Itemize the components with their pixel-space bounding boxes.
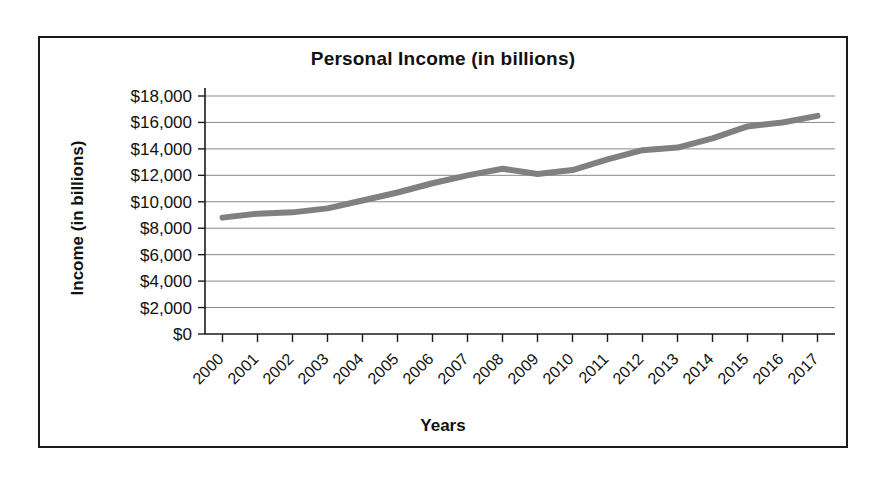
y-tick-label: $4,000 — [140, 272, 192, 291]
y-tick-label: $6,000 — [140, 246, 192, 265]
x-tick-label: 2007 — [434, 350, 471, 387]
x-tick-label: 2004 — [329, 350, 366, 387]
data-series — [223, 116, 818, 218]
y-tick-label: $18,000 — [131, 87, 192, 106]
x-tick-label: 2011 — [575, 350, 611, 386]
x-tick-label: 2017 — [784, 350, 821, 387]
y-tick-label: $0 — [173, 325, 192, 344]
chart-frame: Personal Income (in billions) Income (in… — [38, 36, 848, 448]
y-tick-label: $14,000 — [131, 140, 192, 159]
chart-figure: Personal Income (in billions) Income (in… — [0, 0, 886, 483]
x-tick-label: 2013 — [644, 350, 681, 387]
y-tick-label: $8,000 — [140, 219, 192, 238]
y-tick-label: $16,000 — [131, 113, 192, 132]
plot-area: $0$2,000$4,000$6,000$8,000$10,000$12,000… — [40, 38, 850, 450]
x-tick-label: 2003 — [294, 350, 331, 387]
x-tick-label: 2014 — [679, 350, 716, 387]
x-tick-label: 2001 — [224, 350, 261, 387]
x-tick-label: 2010 — [539, 350, 576, 387]
x-tick-label: 2012 — [609, 350, 646, 387]
x-tick-label: 2015 — [714, 350, 751, 387]
x-tick-label: 2002 — [259, 350, 296, 387]
x-tick-label: 2000 — [189, 350, 226, 387]
y-tick-label: $2,000 — [140, 299, 192, 318]
data-line — [223, 116, 818, 218]
x-tick-label: 2005 — [364, 350, 401, 387]
y-tick-label: $12,000 — [131, 166, 192, 185]
x-tick-label: 2009 — [504, 350, 541, 387]
x-axis-ticks: 2000200120022003200420052006200720082009… — [189, 334, 821, 387]
x-tick-label: 2006 — [399, 350, 436, 387]
x-tick-label: 2016 — [749, 350, 786, 387]
x-tick-label: 2008 — [469, 350, 506, 387]
y-tick-label: $10,000 — [131, 193, 192, 212]
y-axis-ticks: $0$2,000$4,000$6,000$8,000$10,000$12,000… — [131, 87, 205, 344]
